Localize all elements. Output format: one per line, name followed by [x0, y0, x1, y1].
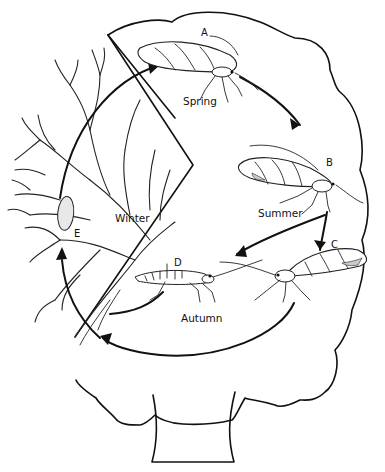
arrow-spring-to-summer — [240, 77, 300, 125]
bare-branches — [8, 48, 175, 345]
aphid-b — [238, 145, 363, 214]
life-cycle-diagram: E A Spring — [0, 0, 385, 472]
label-d: D — [174, 257, 182, 268]
arrowhead-c — [314, 240, 326, 250]
winter-wedge-border — [75, 35, 193, 337]
label-e: E — [74, 228, 80, 239]
arrow-winter-up — [62, 260, 100, 338]
aphid-c — [220, 249, 367, 302]
label-b: B — [326, 157, 333, 168]
egg-e — [56, 196, 75, 231]
arrowhead-winter-up — [56, 247, 67, 260]
label-a: A — [201, 27, 208, 38]
label-autumn: Autumn — [181, 312, 223, 324]
label-spring: Spring — [183, 95, 217, 107]
label-winter: Winter — [115, 212, 150, 224]
label-summer: Summer — [258, 207, 303, 219]
label-c: C — [331, 239, 338, 250]
arrowhead-d — [235, 245, 247, 257]
arrow-winter-to-spring — [60, 65, 160, 198]
arrow-summer-to-d — [237, 215, 325, 254]
arrow-d-return — [110, 292, 163, 314]
aphid-d — [135, 260, 262, 302]
aphid-a — [138, 36, 258, 102]
tree-trunk — [152, 392, 235, 462]
